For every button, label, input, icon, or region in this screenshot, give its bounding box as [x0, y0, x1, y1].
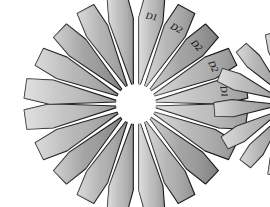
- rosette-diagram-svg: D1D2D2D2D1: [0, 0, 270, 207]
- petal-label: D1: [218, 84, 230, 98]
- petal: [214, 100, 270, 117]
- rosette-hub: [116, 84, 156, 124]
- diagram-canvas: D1D2D2D2D1: [0, 0, 270, 207]
- petal-label: D1: [144, 10, 158, 22]
